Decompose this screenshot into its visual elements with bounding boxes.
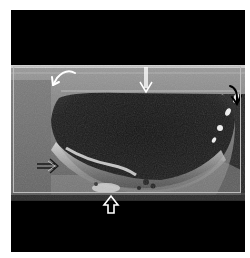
ultrasound-image: Grayscale ultrasound image with a rectan…	[11, 10, 245, 252]
ultrasound-scan	[11, 10, 245, 252]
